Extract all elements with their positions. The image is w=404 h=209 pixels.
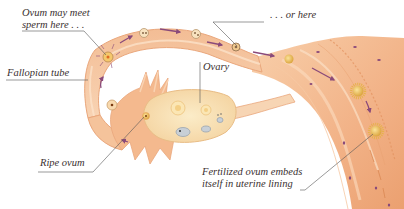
- zygote-2: [192, 30, 201, 39]
- ovary: [144, 90, 236, 143]
- morula: [285, 55, 294, 64]
- label-line: . . . or here: [268, 9, 316, 21]
- label-ripe-ovum: Ripe ovum: [40, 157, 85, 169]
- label-fertilized-ovum-embeds: Fertilized ovum embeds itself in uterine…: [202, 166, 302, 190]
- label-line: Ripe ovum: [40, 157, 85, 169]
- label-line: Ovary: [203, 61, 229, 73]
- label-line: Fertilized ovum embeds: [202, 166, 302, 178]
- label-line: Ovum may meet: [22, 7, 90, 19]
- label-line: sperm here . . .: [22, 19, 90, 31]
- label-ovum-may-meet-sperm: Ovum may meet sperm here . . .: [22, 7, 90, 31]
- label-line: Fallopian tube: [7, 67, 69, 79]
- label-fallopian-tube: Fallopian tube: [7, 67, 69, 79]
- label-ovary: Ovary: [203, 61, 229, 73]
- label-line: itself in uterine lining: [202, 178, 302, 190]
- label-or-here: . . . or here: [268, 9, 316, 21]
